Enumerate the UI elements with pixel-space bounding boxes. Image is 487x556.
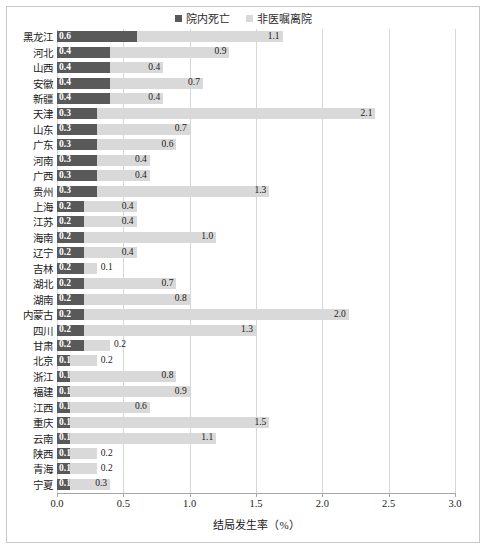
bar-value-label-in-hospital-death: 0.4 bbox=[59, 47, 71, 57]
bar-row: 宁夏0.10.3 bbox=[0, 477, 487, 492]
bar-value-label-in-hospital-death: 0.4 bbox=[59, 63, 71, 73]
bar-segment-discharge-against-advice: 1.3 bbox=[97, 186, 269, 197]
bar-row: 陕西0.10.2 bbox=[0, 446, 487, 461]
bar-segment-discharge-against-advice: 1.1 bbox=[137, 31, 283, 42]
bar-value-label-discharge-against-advice: 0.6 bbox=[162, 140, 174, 150]
bar-row: 新疆0.40.4 bbox=[0, 91, 487, 106]
x-tick-1.5 bbox=[256, 493, 257, 497]
bar-segment-in-hospital-death: 0.2 bbox=[57, 278, 84, 289]
stacked-bar: 0.11.1 bbox=[57, 433, 216, 444]
bar-row: 贵州0.31.3 bbox=[0, 183, 487, 198]
stacked-bar: 0.10.6 bbox=[57, 402, 150, 413]
bar-value-label-in-hospital-death: 0.2 bbox=[59, 264, 71, 274]
legend-swatch-dark-icon bbox=[175, 15, 182, 22]
category-label-山东: 山东 bbox=[0, 122, 53, 137]
category-label-青海: 青海 bbox=[0, 461, 53, 476]
bar-segment-discharge-against-advice: 0.4 bbox=[84, 216, 137, 227]
bar-value-label-in-hospital-death: 0.2 bbox=[59, 310, 71, 320]
legend-label-discharge-against-advice: 非医嘱离院 bbox=[257, 10, 312, 26]
bar-segment-in-hospital-death: 0.2 bbox=[57, 216, 84, 227]
stacked-bar: 0.20.4 bbox=[57, 201, 137, 212]
bar-value-label-in-hospital-death: 0.2 bbox=[59, 217, 71, 227]
category-label-北京: 北京 bbox=[0, 353, 53, 368]
stacked-bar: 0.20.7 bbox=[57, 278, 176, 289]
bar-value-label-discharge-against-advice: 0.4 bbox=[148, 94, 160, 104]
stacked-bar: 0.11.5 bbox=[57, 417, 269, 428]
bar-segment-in-hospital-death: 0.4 bbox=[57, 47, 110, 58]
bar-segment-discharge-against-advice: 1.0 bbox=[84, 232, 217, 243]
x-axis-tick-labels: 0.00.51.01.52.02.53.0 bbox=[0, 498, 487, 514]
bar-row: 浙江0.10.8 bbox=[0, 369, 487, 384]
category-label-四川: 四川 bbox=[0, 323, 53, 338]
bar-row: 云南0.11.1 bbox=[0, 430, 487, 445]
stacked-bar-chart: 院内死亡 非医嘱离院 黑龙江0.61.1河北0.40.9山西0.40.4安徽0.… bbox=[0, 0, 487, 556]
bar-value-label-in-hospital-death: 0.3 bbox=[59, 155, 71, 165]
bar-value-label-in-hospital-death: 0.2 bbox=[59, 248, 71, 258]
bar-value-label-discharge-against-advice: 0.4 bbox=[122, 217, 134, 227]
bar-value-label-discharge-against-advice: 0.2 bbox=[101, 449, 113, 459]
bar-row: 上海0.20.4 bbox=[0, 199, 487, 214]
category-label-贵州: 贵州 bbox=[0, 184, 53, 199]
category-label-新疆: 新疆 bbox=[0, 91, 53, 106]
bar-value-label-in-hospital-death: 0.6 bbox=[59, 32, 71, 42]
category-label-湖南: 湖南 bbox=[0, 292, 53, 307]
x-tick-2.5 bbox=[389, 493, 390, 497]
bar-value-label-discharge-against-advice: 1.1 bbox=[201, 433, 213, 443]
stacked-bar: 0.40.7 bbox=[57, 78, 203, 89]
bar-segment-discharge-against-advice: 0.4 bbox=[110, 93, 163, 104]
bar-rows: 黑龙江0.61.1河北0.40.9山西0.40.4安徽0.40.7新疆0.40.… bbox=[0, 29, 487, 492]
bar-segment-discharge-against-advice: 1.3 bbox=[84, 325, 256, 336]
x-tick-label-3.0: 3.0 bbox=[448, 498, 461, 509]
bar-row: 山东0.30.7 bbox=[0, 122, 487, 137]
x-tick-2.0 bbox=[322, 493, 323, 497]
bar-segment-discharge-against-advice: 0.9 bbox=[110, 47, 229, 58]
legend-swatch-light-icon bbox=[246, 15, 253, 22]
chart-legend: 院内死亡 非医嘱离院 bbox=[0, 10, 487, 26]
bar-row: 广西0.30.4 bbox=[0, 168, 487, 183]
bar-segment-discharge-against-advice: 2.0 bbox=[84, 309, 349, 320]
stacked-bar: 0.10.8 bbox=[57, 371, 176, 382]
category-label-安徽: 安徽 bbox=[0, 76, 53, 91]
bar-segment-in-hospital-death: 0.2 bbox=[57, 247, 84, 258]
bar-row: 河北0.40.9 bbox=[0, 44, 487, 59]
bar-row: 湖南0.20.8 bbox=[0, 291, 487, 306]
bar-value-label-discharge-against-advice: 0.7 bbox=[188, 78, 200, 88]
bar-value-label-in-hospital-death: 0.1 bbox=[59, 402, 71, 412]
bar-row: 广东0.30.6 bbox=[0, 137, 487, 152]
stacked-bar: 0.21.3 bbox=[57, 325, 256, 336]
bar-segment-in-hospital-death: 0.4 bbox=[57, 78, 110, 89]
bar-segment-discharge-against-advice: 1.1 bbox=[70, 433, 216, 444]
bar-row: 重庆0.11.5 bbox=[0, 415, 487, 430]
bar-row: 湖北0.20.7 bbox=[0, 276, 487, 291]
bar-segment-in-hospital-death: 0.4 bbox=[57, 62, 110, 73]
bar-segment-discharge-against-advice: 2.1 bbox=[97, 108, 376, 119]
category-label-云南: 云南 bbox=[0, 431, 53, 446]
stacked-bar: 0.10.2 bbox=[57, 448, 97, 459]
stacked-bar: 0.20.8 bbox=[57, 294, 190, 305]
bar-value-label-in-hospital-death: 0.2 bbox=[59, 233, 71, 243]
stacked-bar: 0.30.4 bbox=[57, 155, 150, 166]
category-label-广东: 广东 bbox=[0, 137, 53, 152]
stacked-bar: 0.40.4 bbox=[57, 62, 163, 73]
stacked-bar: 0.22.0 bbox=[57, 309, 349, 320]
bar-row: 吉林0.20.1 bbox=[0, 261, 487, 276]
bar-segment-in-hospital-death: 0.4 bbox=[57, 93, 110, 104]
x-tick-1.0 bbox=[190, 493, 191, 497]
bar-segment-discharge-against-advice: 0.4 bbox=[97, 155, 150, 166]
category-label-甘肃: 甘肃 bbox=[0, 338, 53, 353]
bar-value-label-in-hospital-death: 0.3 bbox=[59, 171, 71, 181]
stacked-bar: 0.10.2 bbox=[57, 355, 97, 366]
bar-segment-in-hospital-death: 0.2 bbox=[57, 294, 84, 305]
bar-value-label-in-hospital-death: 0.4 bbox=[59, 94, 71, 104]
stacked-bar: 0.20.4 bbox=[57, 247, 137, 258]
bar-value-label-in-hospital-death: 0.2 bbox=[59, 294, 71, 304]
x-axis-title: 结局发生率（%） bbox=[57, 516, 456, 532]
bar-segment-in-hospital-death: 0.3 bbox=[57, 108, 97, 119]
bar-segment-discharge-against-advice: 0.6 bbox=[97, 139, 177, 150]
stacked-bar: 0.61.1 bbox=[57, 31, 283, 42]
bar-value-label-discharge-against-advice: 0.4 bbox=[122, 248, 134, 258]
bar-row: 海南0.21.0 bbox=[0, 230, 487, 245]
legend-label-in-hospital-death: 院内死亡 bbox=[186, 10, 230, 26]
bar-segment-discharge-against-advice: 0.1 bbox=[84, 263, 97, 274]
bar-segment-in-hospital-death: 0.6 bbox=[57, 31, 137, 42]
